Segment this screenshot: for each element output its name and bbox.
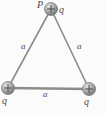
point-p-label: P xyxy=(37,0,43,10)
bottom-left-charge-sphere xyxy=(2,82,15,95)
top-charge-sphere xyxy=(45,3,58,16)
triangle-side-bottom xyxy=(8,88,89,89)
bottom-right-charge-label: q xyxy=(84,97,89,107)
physics-figure: P q q q a a a xyxy=(0,0,105,116)
top-charge-label: q xyxy=(59,5,64,15)
triangle-diagram-svg xyxy=(0,0,105,116)
side-bottom-length-label: a xyxy=(43,90,48,99)
side-left-length-label: a xyxy=(21,42,26,51)
bottom-left-charge-label: q xyxy=(2,96,7,106)
side-right-length-label: a xyxy=(77,42,82,51)
triangle-side-right xyxy=(51,9,89,89)
triangle-side-left xyxy=(8,9,51,88)
bottom-right-charge-sphere xyxy=(83,83,96,96)
